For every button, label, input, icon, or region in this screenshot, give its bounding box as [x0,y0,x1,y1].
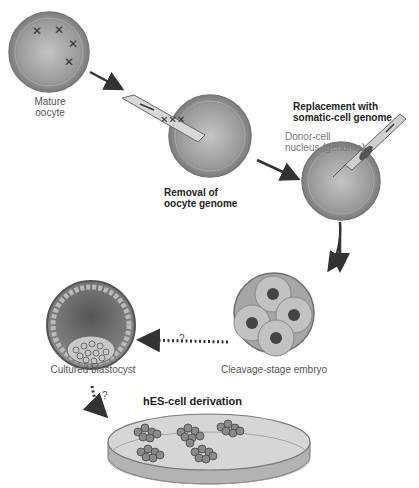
question-mark-2: ? [102,390,108,401]
donor-label-line1: Donor-cell [285,131,365,142]
svg-text:✕: ✕ [68,37,78,51]
removal-label-line2: oocyte genome [164,198,237,209]
removal-oocyte-cell [169,95,251,177]
arrow-1 [90,72,120,88]
cleavage-embryo-label: Cleavage-stage embryo [219,364,329,375]
cleavage-embryo [234,273,314,356]
arrow-4-dotted [142,340,228,342]
donor-nucleus-label: Donor-cell nucleus (genome) [285,131,365,153]
scnt-diagram: ✕ ✕ ✕ ✕ ✕✕✕ [0,0,419,488]
blastocyst-label: Cultured blastocyst [38,364,148,375]
svg-text:✕✕✕: ✕✕✕ [160,114,185,125]
removal-label: Removal of oocyte genome [164,187,237,209]
arrow-2 [257,160,296,178]
mature-oocyte-cell: ✕ ✕ ✕ ✕ [9,12,89,92]
replacement-label-line2: somatic-cell genome [293,112,392,123]
cultured-blastocyst [47,281,135,369]
donor-label-line2: nucleus (genome) [285,142,365,153]
svg-text:✕: ✕ [54,23,64,37]
replacement-label: Replacement with somatic-cell genome [293,101,392,123]
svg-text:✕: ✕ [64,55,74,69]
replacement-label-line1: Replacement with [293,101,392,112]
mature-oocyte-label-line1: Mature [20,96,80,107]
question-mark-1: ? [179,333,185,344]
mature-oocyte-label-line2: oocyte [20,107,80,118]
svg-text:✕: ✕ [32,24,42,38]
hes-derivation-label: hES-cell derivation [143,396,242,407]
removal-label-line1: Removal of [164,187,237,198]
mature-oocyte-label: Mature oocyte [20,96,80,118]
